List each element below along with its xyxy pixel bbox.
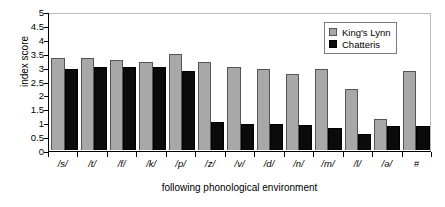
- bar-group: [402, 13, 431, 150]
- bar-chatteris: [211, 122, 224, 150]
- bar-chatteris: [182, 71, 195, 150]
- bar-chatteris: [299, 125, 312, 150]
- y-tick-label: 3: [18, 64, 44, 74]
- bar-group: [226, 13, 255, 150]
- x-tick-label: /m/: [313, 158, 342, 169]
- x-tick-label: /d/: [254, 158, 283, 169]
- bar-kings-lynn: [257, 69, 270, 150]
- legend-swatch-icon-kings-lynn: [329, 28, 337, 36]
- bar-chatteris: [123, 67, 136, 150]
- y-tick-label: 1: [18, 119, 44, 129]
- x-tick-label: /z/: [195, 158, 224, 169]
- x-tick-mark: [195, 152, 196, 157]
- y-tick-label: 3.5: [18, 50, 44, 60]
- x-tick-label: #: [402, 158, 431, 169]
- bar-kings-lynn: [51, 58, 64, 150]
- bar-kings-lynn: [345, 89, 358, 150]
- y-tick-label: 0: [18, 147, 44, 157]
- x-tick-label: /s/: [48, 158, 77, 169]
- x-tick-label: /p/: [166, 158, 195, 169]
- x-axis-title: following phonological environment: [48, 182, 431, 193]
- bar-chatteris: [358, 134, 371, 150]
- x-tick-label: /t/: [77, 158, 106, 169]
- x-tick-mark: [166, 152, 167, 157]
- legend: King's Lynn Chatteris: [324, 22, 397, 54]
- legend-item-kings-lynn: King's Lynn: [329, 26, 390, 38]
- bar-kings-lynn: [139, 62, 152, 150]
- x-axis-ticks: [48, 152, 431, 157]
- legend-label-chatteris: Chatteris: [342, 39, 380, 50]
- bar-group: [167, 13, 196, 150]
- bar-kings-lynn: [286, 74, 299, 150]
- bar-chart: index score 54.543.532.521.510.50 /s//t/…: [0, 0, 445, 207]
- y-tick-label: 2: [18, 91, 44, 101]
- x-tick-mark: [372, 152, 373, 157]
- x-tick-mark: [225, 152, 226, 157]
- bar-group: [50, 13, 79, 150]
- x-tick-mark: [284, 152, 285, 157]
- bar-kings-lynn: [403, 71, 416, 150]
- bar-chatteris: [241, 124, 254, 150]
- bar-group: [255, 13, 284, 150]
- bar-kings-lynn: [198, 62, 211, 150]
- x-tick-mark: [107, 152, 108, 157]
- x-tick-mark: [254, 152, 255, 157]
- bar-chatteris: [153, 67, 166, 150]
- bar-kings-lynn: [315, 69, 328, 150]
- bar-group: [109, 13, 138, 150]
- x-tick-mark: [431, 152, 432, 157]
- x-tick-mark: [343, 152, 344, 157]
- x-tick-mark: [402, 152, 403, 157]
- bar-kings-lynn: [227, 67, 240, 150]
- y-tick-label: 4: [18, 36, 44, 46]
- x-tick-mark: [77, 152, 78, 157]
- x-tick-mark: [136, 152, 137, 157]
- bar-group: [79, 13, 108, 150]
- y-axis-ticks: 54.543.532.521.510.50: [18, 8, 44, 158]
- bar-chatteris: [387, 126, 400, 150]
- bar-kings-lynn: [169, 54, 182, 150]
- x-tick-label: /k/: [136, 158, 165, 169]
- bar-group: [138, 13, 167, 150]
- x-axis-labels: /s//t//f//k//p//z//v//d//n//m//l//ə/#: [48, 158, 431, 169]
- x-tick-label: /v/: [225, 158, 254, 169]
- x-tick-mark: [313, 152, 314, 157]
- bar-group: [197, 13, 226, 150]
- x-tick-label: /f/: [107, 158, 136, 169]
- y-tick-label: 1.5: [18, 105, 44, 115]
- bar-chatteris: [65, 69, 78, 150]
- y-tick-label: 2.5: [18, 78, 44, 88]
- x-tick-label: /l/: [343, 158, 372, 169]
- x-tick-mark: [48, 152, 49, 157]
- bar-kings-lynn: [374, 119, 387, 150]
- x-tick-label: /ə/: [372, 158, 401, 169]
- legend-swatch-icon-chatteris: [329, 40, 337, 48]
- bar-chatteris: [328, 128, 341, 150]
- bar-group: [285, 13, 314, 150]
- y-tick-label: 5: [18, 8, 44, 18]
- bar-chatteris: [94, 67, 107, 150]
- y-tick-label: 4.5: [18, 22, 44, 32]
- bar-kings-lynn: [110, 60, 123, 150]
- x-tick-label: /n/: [284, 158, 313, 169]
- bar-kings-lynn: [81, 58, 94, 150]
- y-tick-label: 0.5: [18, 133, 44, 143]
- legend-label-kings-lynn: King's Lynn: [342, 27, 390, 38]
- legend-item-chatteris: Chatteris: [329, 38, 390, 50]
- bar-chatteris: [270, 124, 283, 150]
- bar-chatteris: [416, 126, 429, 150]
